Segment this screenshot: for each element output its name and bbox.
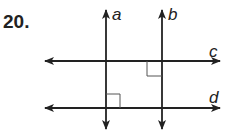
label-a: a <box>112 5 121 24</box>
label-c: c <box>209 42 218 61</box>
parallel-perpendicular-lines-diagram: a b c d <box>0 0 235 132</box>
right-angle-mark-a-d <box>106 94 120 108</box>
right-angle-mark-b-c <box>147 61 162 76</box>
label-d: d <box>209 88 219 107</box>
label-b: b <box>168 5 177 24</box>
